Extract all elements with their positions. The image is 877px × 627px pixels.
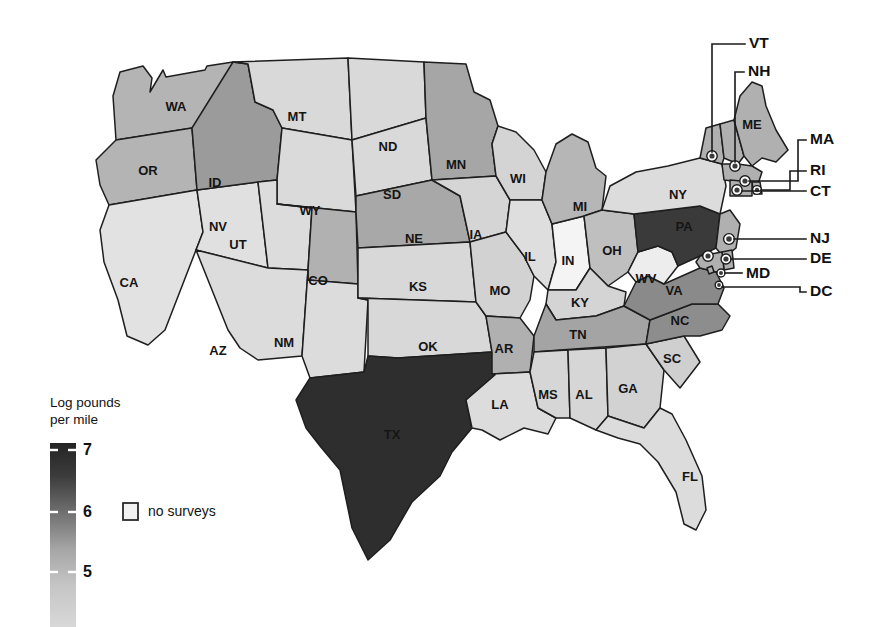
state-label-SC: SC [663,351,682,366]
callout-label-RI: RI [810,161,826,178]
state-label-VA: VA [665,283,683,298]
legend-tick-label-5: 5 [83,563,92,580]
legend-no-surveys-swatch [123,503,138,520]
marker-RI[interactable] [753,186,762,195]
state-label-WA: WA [166,99,188,114]
state-label-KS: KS [409,279,427,294]
callout-label-VT: VT [749,34,769,51]
state-label-NY: NY [669,187,687,202]
state-label-MI: MI [573,199,587,214]
state-label-LA: LA [491,397,509,412]
legend-tick-label-6: 6 [83,503,92,520]
leader-line-DC [722,287,806,292]
state-label-NM: NM [274,335,294,350]
marker-MD-anchor[interactable] [717,269,725,277]
callout-label-CT: CT [810,182,831,199]
state-label-IL: IL [524,249,536,264]
state-label-MO: MO [490,283,511,298]
state-label-WV: WV [636,271,657,286]
state-label-IA: IA [470,227,484,242]
state-label-ND: ND [379,139,398,154]
state-label-FL: FL [682,469,698,484]
legend-tick-label-7: 7 [83,441,92,458]
state-label-OK: OK [418,339,438,354]
state-label-AR: AR [495,341,514,356]
legend-title-line1: Log pounds [50,395,121,410]
marker-NJ[interactable] [724,234,735,245]
callout-label-DC: DC [810,282,832,299]
state-label-TX: TX [384,427,401,442]
us-map-svg: WA OR CA NV ID MT WY UT AZ CO NM ND SD N… [0,0,877,627]
legend-no-surveys-label: no surveys [148,503,216,519]
state-label-AZ: AZ [209,343,226,358]
state-label-CO: CO [308,273,328,288]
callout-label-NH: NH [748,62,770,79]
state-label-OR: OR [138,163,158,178]
state-label-ME: ME [742,117,762,132]
marker-CT[interactable] [732,185,742,195]
state-DC[interactable] [707,266,714,274]
state-label-NE: NE [405,231,423,246]
legend-colorbar [50,443,76,627]
states-layer [96,58,788,560]
state-label-WY: WY [300,203,321,218]
state-label-TN: TN [569,327,586,342]
state-label-ID: ID [209,175,222,190]
map-legend: Log pounds per mile 7 6 5 no surveys [50,395,216,627]
state-label-OH: OH [602,243,622,258]
marker-MD[interactable] [703,251,713,261]
callout-label-NJ: NJ [810,229,830,246]
state-WY[interactable] [277,128,356,212]
state-label-NC: NC [671,313,690,328]
state-CA[interactable] [100,190,203,345]
state-label-NV: NV [209,219,227,234]
state-NY[interactable] [602,158,726,214]
marker-DE[interactable] [721,254,731,264]
legend-title-line2: per mile [50,412,98,427]
state-label-GA: GA [618,381,638,396]
state-label-AL: AL [575,387,592,402]
state-label-IN: IN [562,253,575,268]
callout-label-DE: DE [810,249,832,266]
state-label-MT: MT [288,109,307,124]
callout-label-MD: MD [746,264,770,281]
callout-label-MA: MA [810,130,834,147]
state-label-KY: KY [571,295,589,310]
state-label-PA: PA [675,219,693,234]
state-label-WI: WI [510,171,526,186]
state-label-SD: SD [383,187,401,202]
state-TX[interactable] [296,352,496,560]
state-label-UT: UT [229,237,246,252]
state-label-CA: CA [120,275,139,290]
state-label-MS: MS [538,387,558,402]
state-label-MN: MN [446,157,466,172]
us-choropleth-figure: WA OR CA NV ID MT WY UT AZ CO NM ND SD N… [0,0,877,627]
